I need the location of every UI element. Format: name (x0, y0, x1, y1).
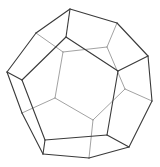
dodecahedron-diagram (0, 0, 160, 167)
hidden-edge (107, 23, 117, 47)
visible-edge (66, 9, 70, 37)
hidden-edge (93, 89, 125, 120)
visible-edge (129, 101, 152, 147)
visible-edge (117, 23, 148, 56)
visible-edge (22, 113, 43, 154)
visible-edge (22, 80, 45, 140)
visible-edge (107, 135, 129, 147)
hidden-edge (36, 33, 63, 52)
visible-edge (45, 135, 107, 140)
hidden-edge (22, 98, 55, 113)
visible-edge (43, 154, 89, 158)
visible-edge (107, 71, 118, 135)
hidden-edges (22, 23, 152, 158)
visible-edge (7, 33, 36, 72)
hidden-edge (125, 89, 152, 101)
hidden-edge (55, 52, 63, 98)
visible-edge (7, 72, 22, 113)
hidden-edge (55, 98, 93, 120)
visible-edge (43, 140, 45, 154)
visible-edge (36, 9, 70, 33)
hidden-edge (89, 120, 93, 158)
visible-edges (7, 9, 152, 158)
visible-edge (118, 56, 148, 71)
visible-edge (89, 147, 129, 158)
visible-edge (148, 56, 152, 101)
visible-edge (70, 9, 117, 23)
